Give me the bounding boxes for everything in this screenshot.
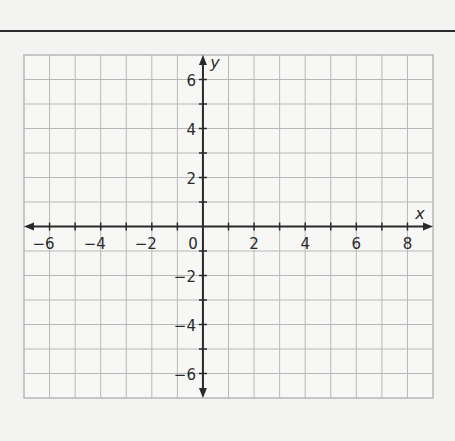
origin-label: 0 — [188, 235, 198, 253]
y-tick-label: −4 — [174, 317, 196, 335]
y-tick-label: −2 — [174, 268, 196, 286]
y-tick-label: 6 — [186, 72, 196, 90]
x-tick-label: −4 — [84, 235, 106, 253]
x-tick-label: 4 — [300, 235, 310, 253]
x-tick-label: 8 — [403, 235, 413, 253]
y-axis-label: y — [209, 53, 220, 72]
x-axis-label: x — [414, 204, 425, 223]
y-tick-label: 4 — [186, 121, 196, 139]
y-tick-label: 2 — [186, 170, 196, 188]
x-tick-label: 2 — [249, 235, 259, 253]
x-tick-label: 6 — [352, 235, 362, 253]
x-tick-label: −2 — [135, 235, 157, 253]
coordinate-plane: −6−4−22468642−2−4−60xy — [0, 0, 455, 441]
x-tick-label: −6 — [33, 235, 55, 253]
y-tick-label: −6 — [174, 366, 196, 384]
